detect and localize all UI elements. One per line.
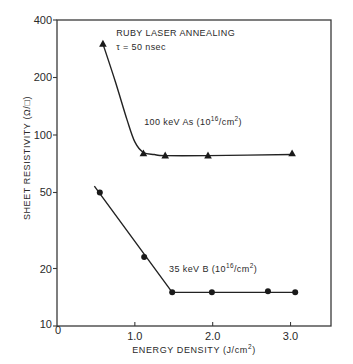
data-point-circle (97, 189, 103, 195)
series-label: 35 keV B (1016/cm2) (169, 262, 257, 274)
y-tick-label: 400 (34, 14, 52, 26)
y-tick-label: 50 (40, 186, 52, 198)
series-line (94, 186, 295, 292)
data-point-triangle (288, 150, 296, 157)
data-point-circle (292, 289, 298, 295)
chart-svg: 10205010020040001.02.03.0 100 keV As (10… (0, 0, 353, 364)
y-axis-label: SHEET RESISTIVITY (Ω/□) (22, 96, 32, 220)
y-tick-label: 200 (34, 71, 52, 83)
data-point-circle (265, 288, 271, 294)
data-point-circle (209, 289, 215, 295)
annotation-0: RUBY LASER ANNEALING (116, 28, 235, 38)
annotations: RUBY LASER ANNEALINGτ = 50 nsec (116, 28, 235, 52)
x-tick-label: 2.0 (205, 330, 220, 342)
series-0: 100 keV As (1016/cm2) (99, 40, 296, 159)
chart-figure: 10205010020040001.02.03.0 100 keV As (10… (0, 0, 353, 364)
y-tick-label: 20 (40, 263, 52, 275)
series-label: 100 keV As (1016/cm2) (144, 115, 242, 127)
series-line (103, 44, 292, 156)
plot-frame (57, 20, 331, 326)
data-series: 100 keV As (1016/cm2)35 keV B (1016/cm2) (94, 40, 298, 296)
data-point-triangle (99, 40, 107, 47)
series-1: 35 keV B (1016/cm2) (94, 186, 298, 295)
x-tick-label: 1.0 (127, 330, 142, 342)
y-tick-label: 100 (34, 129, 52, 141)
y-tick-label: 10 (40, 318, 52, 330)
data-point-circle (141, 254, 147, 260)
data-point-circle (169, 289, 175, 295)
x-axis-label: ENERGY DENSITY (J/cm2) (132, 343, 256, 355)
x-tick-label-origin: 0 (55, 324, 61, 336)
annotation-1: τ = 50 nsec (116, 42, 166, 52)
plot-area-border (57, 20, 331, 326)
x-tick-label: 3.0 (283, 330, 298, 342)
